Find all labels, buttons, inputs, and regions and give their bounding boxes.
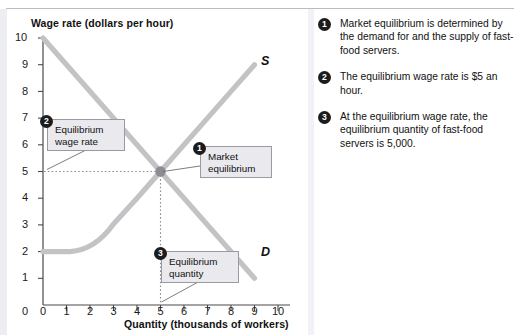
note-text: Market equilibrium is determined by the … — [340, 17, 514, 57]
note-badge: 3 — [318, 111, 331, 124]
y-tick-label: 7 — [16, 111, 34, 123]
supply-curve-label: S — [261, 54, 269, 68]
y-tick-label: 4 — [16, 191, 34, 203]
x-tick-label: 6 — [175, 305, 193, 317]
equilibrium-quantity-callout: Equilibrium quantity — [161, 251, 239, 283]
x-tick-label: 9 — [246, 305, 264, 317]
equilibrium-quantity-callout-line2: quantity — [169, 268, 232, 280]
note-item: 3 At the equilibrium wage rate, the equi… — [318, 110, 514, 150]
y-axis-ticks — [38, 38, 43, 278]
y-tick-label: 8 — [16, 85, 34, 97]
equilibrium-wage-leader-line — [47, 149, 88, 170]
equilibrium-wage-rate-callout-line2: wage rate — [55, 136, 118, 148]
y-tick-label: 0 — [16, 305, 34, 317]
note-text: The equilibrium wage rate is $5 an hour. — [340, 70, 514, 97]
note-badge: 1 — [318, 18, 331, 31]
x-tick-label: 3 — [105, 305, 123, 317]
x-tick-label: 7 — [199, 305, 217, 317]
y-axis-title: Wage rate (dollars per hour) — [31, 17, 173, 29]
note-item: 2 The equilibrium wage rate is $5 an hou… — [318, 70, 514, 97]
demand-curve-label: D — [261, 245, 270, 259]
equilibrium-quantity-leader-line — [162, 281, 201, 302]
equilibrium-quantity-callout-line1: Equilibrium — [169, 256, 232, 268]
x-tick-label: 2 — [81, 305, 99, 317]
y-tick-label: 1 — [16, 271, 34, 283]
x-axis-title: Quantity (thousands of workers) — [124, 318, 289, 330]
market-equilibrium-badge: 1 — [193, 142, 206, 155]
x-tick-label: 0 — [34, 305, 52, 317]
market-equilibrium-callout-line2: equilibrium — [208, 163, 265, 175]
x-tick-label: 5 — [152, 305, 170, 317]
note-item: 1 Market equilibrium is determined by th… — [318, 17, 514, 57]
x-tick-label: 10 — [269, 305, 287, 317]
y-tick-label: 10 — [12, 31, 30, 43]
note-text: At the equilibrium wage rate, the equili… — [340, 110, 514, 150]
equilibrium-wage-rate-callout-line1: Equilibrium — [55, 124, 118, 136]
x-tick-label: 1 — [58, 305, 76, 317]
market-equilibrium-leader-line — [163, 166, 200, 172]
y-tick-label: 6 — [16, 138, 34, 150]
equilibrium-wage-rate-badge: 2 — [40, 115, 53, 128]
y-tick-label: 2 — [16, 245, 34, 257]
y-tick-label: 9 — [16, 58, 34, 70]
panel-divider-strip — [308, 9, 314, 335]
x-tick-label: 8 — [222, 305, 240, 317]
equilibrium-quantity-badge: 3 — [154, 247, 167, 260]
explanation-panel: 1 Market equilibrium is determined by th… — [318, 17, 514, 163]
x-tick-label: 4 — [128, 305, 146, 317]
note-badge: 2 — [318, 71, 331, 84]
equilibrium-wage-rate-callout: Equilibrium wage rate — [47, 119, 125, 151]
market-equilibrium-callout: Market equilibrium — [200, 146, 272, 178]
supply-demand-chart: Wage rate (dollars per hour) Quantity (t… — [0, 9, 305, 335]
y-tick-label: 3 — [16, 218, 34, 230]
y-tick-label: 5 — [16, 165, 34, 177]
market-equilibrium-callout-line1: Market — [208, 151, 265, 163]
figure-root: Wage rate (dollars per hour) Quantity (t… — [0, 0, 520, 335]
